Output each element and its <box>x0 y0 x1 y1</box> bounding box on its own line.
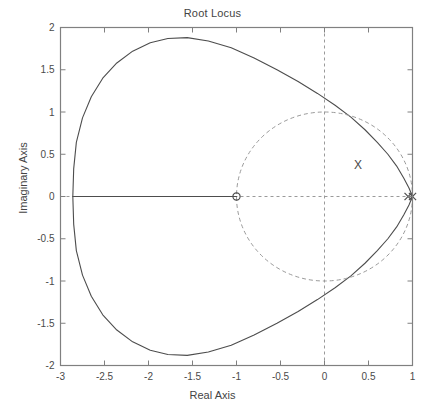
x-tick-label: 1 <box>410 371 416 382</box>
x-tick-label: 0 <box>322 371 328 382</box>
x-tick-label: -2.5 <box>96 371 114 382</box>
y-tick-label: 1 <box>49 107 55 118</box>
y-tick-label: 0 <box>49 191 55 202</box>
x-tick-label: -1 <box>232 371 241 382</box>
y-tick-label: 2 <box>49 22 55 33</box>
y-tick-label: 1.5 <box>41 64 55 75</box>
root-locus-plot: X-3-2.5-2-1.5-1-0.500.5121.510.50-0.5-1-… <box>0 0 425 415</box>
x-tick-label: 0.5 <box>362 371 376 382</box>
x-axis-label: Real Axis <box>0 389 425 401</box>
x-tick-label: -0.5 <box>272 371 290 382</box>
y-tick-label: -1 <box>46 276 55 287</box>
y-tick-label: -2 <box>46 360 55 371</box>
y-axis-label: Imaginary Axis <box>17 123 29 233</box>
x-marker-label: X <box>354 158 362 172</box>
y-tick-label: -0.5 <box>37 233 55 244</box>
y-tick-label: 0.5 <box>41 149 55 160</box>
x-tick-label: -1.5 <box>184 371 202 382</box>
x-tick-label: -2 <box>144 371 153 382</box>
y-tick-label: -1.5 <box>37 318 55 329</box>
x-tick-label: -3 <box>56 371 65 382</box>
root-locus-figure: Root Locus X-3-2.5-2-1.5-1-0.500.5121.51… <box>0 0 425 415</box>
